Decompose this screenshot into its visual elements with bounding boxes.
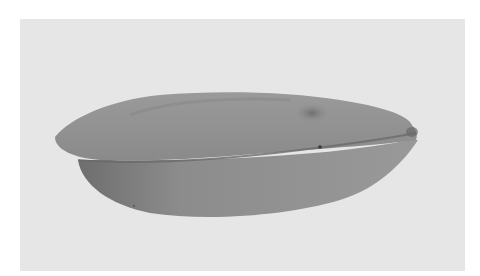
seed-image — [0, 0, 480, 276]
seed-spot — [294, 103, 330, 123]
